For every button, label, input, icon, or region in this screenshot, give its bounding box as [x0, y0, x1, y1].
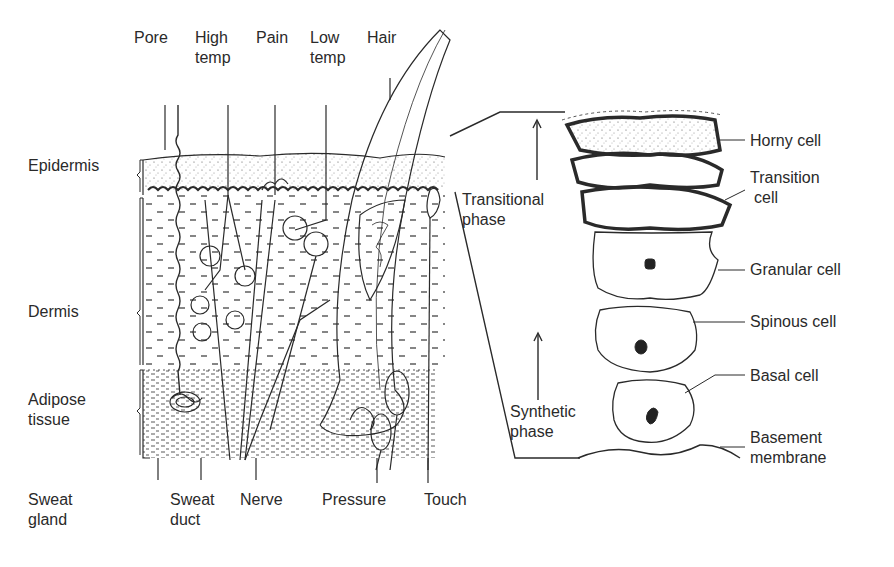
label-hair: Hair	[367, 28, 396, 48]
label-sweat-gland: Sweat gland	[28, 490, 72, 530]
label-basal-cell: Basal cell	[750, 366, 818, 386]
label-pain: Pain	[256, 28, 288, 48]
label-transitional-line1: Transitional	[462, 190, 544, 210]
label-low-temp-line1: Low	[310, 28, 346, 48]
label-sweat-gland-line1: Sweat	[28, 490, 72, 510]
label-adipose-line2: tissue	[28, 410, 86, 430]
label-touch: Touch	[424, 490, 467, 510]
label-basement-line1: Basement	[750, 428, 826, 448]
label-transition-line2: cell	[750, 188, 820, 208]
basement-membrane	[578, 445, 740, 458]
label-transitional-line2: phase	[462, 210, 544, 230]
label-dermis: Dermis	[28, 302, 79, 322]
label-sweat-gland-line2: gland	[28, 510, 72, 530]
label-adipose-line1: Adipose	[28, 390, 86, 410]
label-adipose-tissue: Adipose tissue	[28, 390, 86, 430]
skin-diagram	[0, 0, 894, 567]
epidermal-cell-stack	[562, 111, 745, 458]
granular-cell	[593, 232, 718, 299]
label-sweat-duct-line1: Sweat	[170, 490, 214, 510]
label-high-temp-line2: temp	[195, 48, 231, 68]
label-sweat-duct: Sweat duct	[170, 490, 214, 530]
label-high-temp-line1: High	[195, 28, 231, 48]
label-pressure: Pressure	[322, 490, 386, 510]
spinous-cell	[595, 306, 696, 372]
label-spinous-cell: Spinous cell	[750, 312, 836, 332]
label-sweat-duct-line2: duct	[170, 510, 214, 530]
horny-cell	[567, 116, 720, 155]
skin-cross-section	[143, 30, 450, 483]
label-basement-line2: membrane	[750, 448, 826, 468]
label-transition-cell: Transition cell	[750, 168, 820, 208]
label-granular-cell: Granular cell	[750, 260, 841, 280]
label-pore: Pore	[134, 28, 168, 48]
layer-braces	[137, 160, 143, 455]
label-high-temp: High temp	[195, 28, 231, 68]
label-nerve: Nerve	[240, 490, 283, 510]
label-transitional-phase: Transitional phase	[462, 190, 544, 230]
label-low-temp: Low temp	[310, 28, 346, 68]
label-synthetic-line1: Synthetic	[510, 402, 576, 422]
label-horny-cell: Horny cell	[750, 131, 821, 151]
label-epidermis: Epidermis	[28, 156, 99, 176]
transition-cell	[572, 153, 722, 188]
label-transition-line1: Transition	[750, 168, 820, 188]
label-low-temp-line2: temp	[310, 48, 346, 68]
label-synthetic-line2: phase	[510, 422, 576, 442]
label-synthetic-phase: Synthetic phase	[510, 402, 576, 442]
label-basement-membrane: Basement membrane	[750, 428, 826, 468]
